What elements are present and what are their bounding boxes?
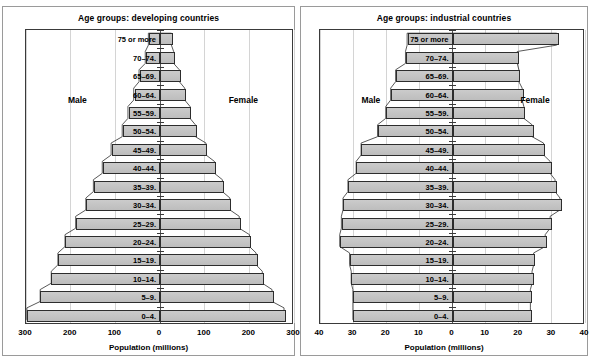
x-tick-label: 10 (480, 328, 489, 337)
x-axis-title-developing: Population (millions) (3, 343, 294, 352)
x-tick-label: 0 (157, 328, 161, 337)
bar-female (453, 181, 557, 193)
bar-female (453, 162, 552, 174)
bar-female (453, 273, 534, 285)
chart-panel-developing: Age groups: developing countries 0–4.5–9… (2, 6, 295, 356)
age-group-label: 30–34. (133, 201, 156, 210)
x-tick-label: 10 (414, 328, 423, 337)
age-group-label: 0–4. (141, 311, 156, 320)
bar-male (27, 310, 160, 322)
age-group-label: 55–59. (426, 108, 449, 117)
age-group-label: 75 or more (118, 35, 156, 44)
bar-female (160, 291, 274, 303)
age-group-label: 70–74. (133, 53, 156, 62)
age-group-label: 75 or more (410, 35, 448, 44)
bar-female (453, 107, 526, 119)
male-label-developing: Male (68, 95, 87, 105)
age-group-label: 40–44. (426, 164, 449, 173)
bar-female (453, 52, 519, 64)
x-tick-label: 0 (449, 328, 453, 337)
bar-female (160, 70, 181, 82)
age-group-label: 15–19. (133, 256, 156, 265)
x-tick-label: 200 (63, 328, 76, 337)
x-tick-label: 300 (18, 328, 31, 337)
x-tick-label: 300 (286, 328, 299, 337)
gridline (294, 30, 295, 323)
x-tick-label: 20 (381, 328, 390, 337)
bar-female (453, 89, 524, 101)
bar-female (160, 181, 224, 193)
bar-female (453, 254, 536, 266)
age-group-label: 40–44. (133, 164, 156, 173)
x-axis-title-industrial: Population (millions) (301, 343, 587, 352)
x-tick-label: 30 (348, 328, 357, 337)
bar-female (453, 291, 533, 303)
age-group-label: 65–69. (426, 72, 449, 81)
age-group-label: 20–24. (133, 238, 156, 247)
bar-female (160, 254, 258, 266)
female-label-developing: Female (229, 95, 258, 105)
bar-female (160, 33, 173, 45)
bar-female (453, 310, 533, 322)
age-group-label: 60–64. (426, 90, 449, 99)
x-tick-label: 40 (315, 328, 324, 337)
bar-female (453, 199, 562, 211)
bar-female (160, 218, 241, 230)
bar-female (160, 125, 197, 137)
age-group-label: 45–49. (426, 145, 449, 154)
bar-female (453, 236, 547, 248)
bar-female (160, 199, 231, 211)
plot-area-industrial: 0–4.5–9.10–14.15–19.20–24.25–29.30–34.35… (319, 29, 584, 324)
x-tick-label: 100 (108, 328, 121, 337)
x-tick-label: 40 (580, 328, 589, 337)
age-group-label: 50–54. (426, 127, 449, 136)
female-label-industrial: Female (520, 95, 549, 105)
age-group-label: 60–64. (133, 90, 156, 99)
age-group-label: 45–49. (133, 145, 156, 154)
age-group-label: 30–34. (426, 201, 449, 210)
age-group-label: 25–29. (426, 219, 449, 228)
bar-female (160, 236, 251, 248)
age-group-label: 5–9. (434, 293, 449, 302)
chart-title-developing: Age groups: developing countries (3, 13, 294, 23)
chart-panel-industrial: Age groups: industrial countries 0–4.5–9… (300, 6, 588, 356)
bar-female (160, 310, 286, 322)
x-tick-label: 100 (197, 328, 210, 337)
bar-female (453, 33, 559, 45)
plot-area-developing: 0–4.5–9.10–14.15–19.20–24.25–29.30–34.35… (25, 29, 293, 324)
figure-sheet: Age groups: developing countries 0–4.5–9… (0, 0, 590, 362)
age-group-label: 0–4. (434, 311, 449, 320)
age-group-label: 70–74. (426, 53, 449, 62)
age-group-label: 65–69. (133, 72, 156, 81)
bar-female (160, 52, 175, 64)
bar-female (453, 70, 521, 82)
bar-female (453, 218, 552, 230)
x-tick-label: 200 (242, 328, 255, 337)
gridline (585, 30, 586, 323)
age-group-label: 55–59. (133, 108, 156, 117)
bar-female (160, 273, 264, 285)
age-group-label: 25–29. (133, 219, 156, 228)
age-group-label: 10–14. (426, 274, 449, 283)
age-group-label: 20–24. (426, 238, 449, 247)
age-group-label: 15–19. (426, 256, 449, 265)
age-group-label: 35–39. (133, 182, 156, 191)
bar-female (160, 89, 186, 101)
bar-female (160, 162, 216, 174)
bar-female (453, 144, 546, 156)
age-group-label: 35–39. (426, 182, 449, 191)
bar-female (160, 107, 191, 119)
bar-female (453, 125, 534, 137)
age-group-label: 10–14. (133, 274, 156, 283)
chart-title-industrial: Age groups: industrial countries (301, 13, 587, 23)
age-group-label: 50–54. (133, 127, 156, 136)
x-tick-label: 20 (513, 328, 522, 337)
bar-female (160, 144, 207, 156)
age-group-label: 5–9. (141, 293, 156, 302)
x-tick-label: 30 (546, 328, 555, 337)
male-label-industrial: Male (361, 95, 380, 105)
